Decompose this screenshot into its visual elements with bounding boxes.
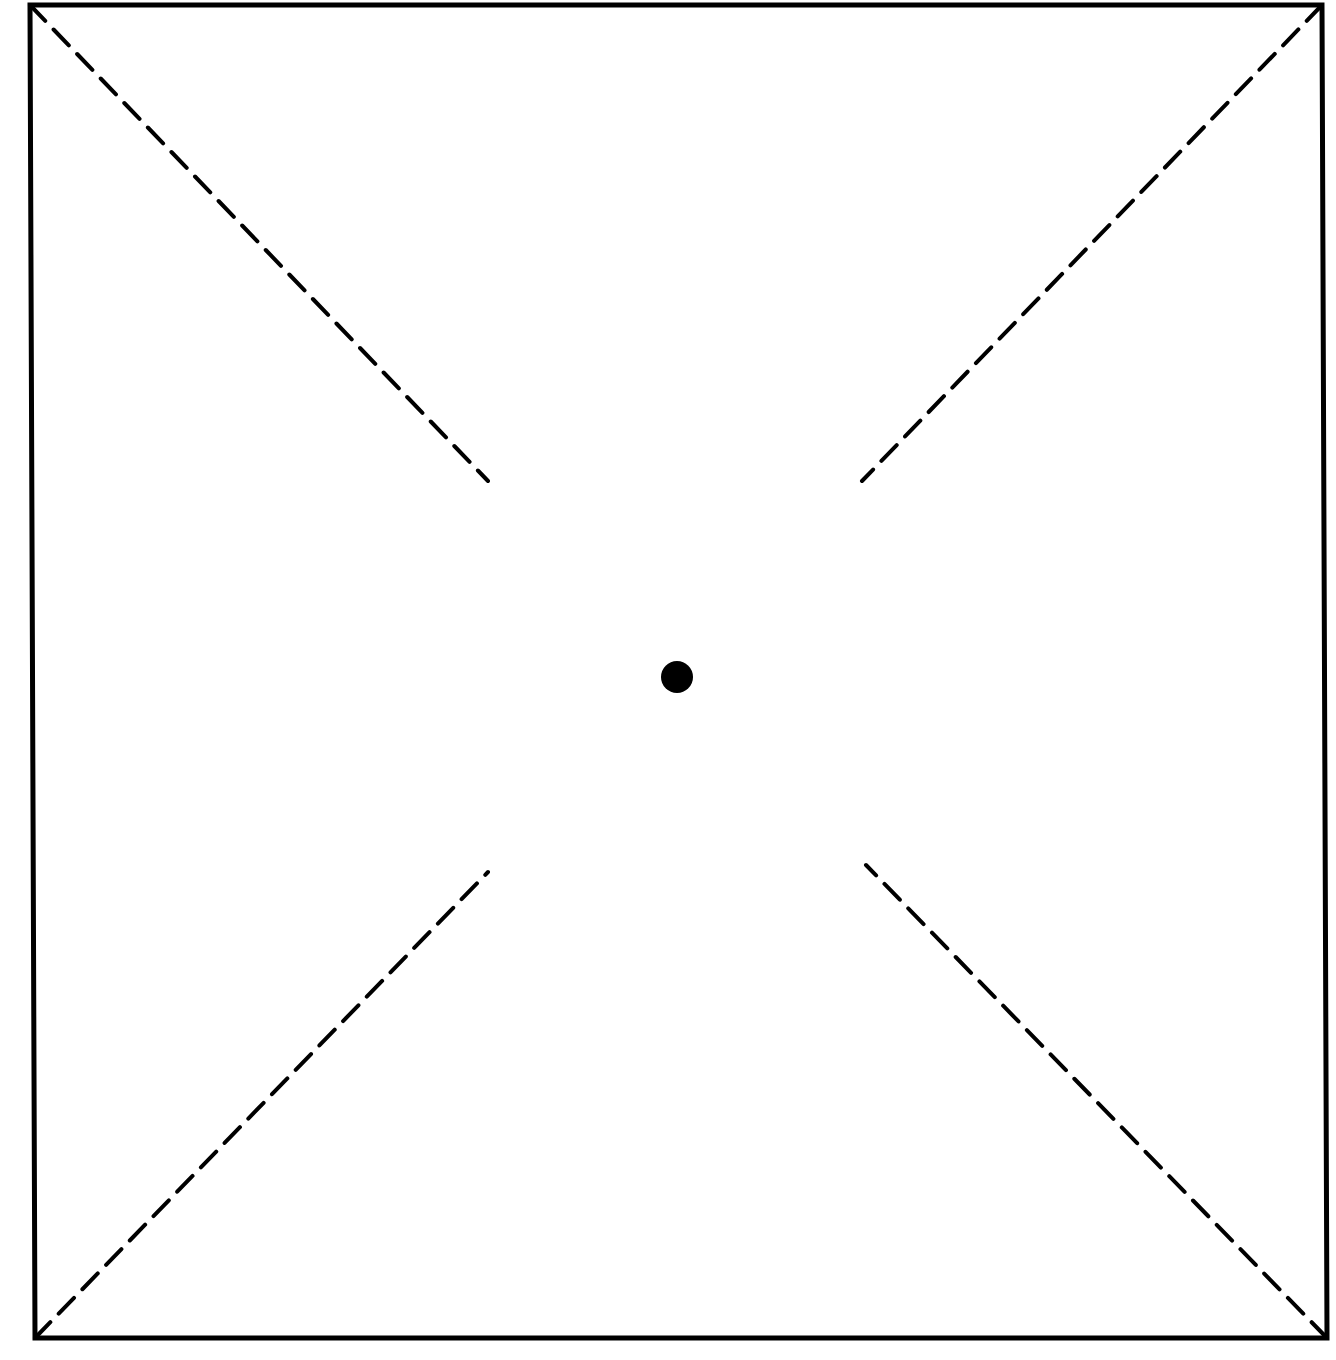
dashed-diagonal-top-left	[30, 5, 488, 481]
dashed-diagonal-top-right	[862, 5, 1322, 481]
dashed-diagonal-bottom-right	[866, 865, 1327, 1338]
center-dot	[661, 661, 693, 693]
dashed-diagonal-bottom-left	[35, 872, 488, 1338]
diagram-canvas	[0, 0, 1336, 1360]
